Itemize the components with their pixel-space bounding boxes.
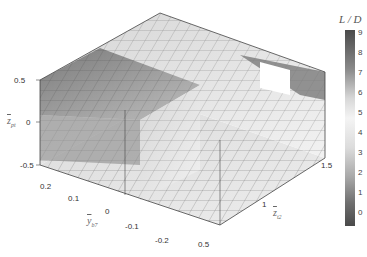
y-tick: -0.1 xyxy=(125,222,139,231)
colorbar-tick: 8 xyxy=(358,48,362,57)
colorbar-tick: 2 xyxy=(358,168,362,177)
y-tick: 0.2 xyxy=(40,182,51,191)
z-tick: -0.5 xyxy=(20,161,34,170)
z-tick: 0 xyxy=(26,118,30,127)
colorbar-tick: 0 xyxy=(358,208,362,217)
colorbar xyxy=(345,30,355,226)
colorbar-tick: 9 xyxy=(358,28,362,37)
colorbar-tick: 6 xyxy=(358,88,362,97)
x-tick: 0.5 xyxy=(198,240,209,249)
x-tick: 1.5 xyxy=(321,161,332,170)
y-tick: 0 xyxy=(105,207,109,216)
colorbar-tick: 4 xyxy=(358,128,362,137)
x-axis-label: zt2 xyxy=(273,207,282,220)
colorbar-tick: 3 xyxy=(358,148,362,157)
z-tick: 0.5 xyxy=(14,76,25,85)
y-axis-label: yb7 xyxy=(87,215,97,228)
colorbar-tick: 1 xyxy=(358,188,362,197)
colorbar-tick: 7 xyxy=(358,68,362,77)
colorbar-title: L / D xyxy=(339,13,361,25)
y-tick: -0.2 xyxy=(155,236,169,245)
x-tick: 1 xyxy=(262,200,266,209)
z-axis-label: zpt xyxy=(7,115,16,128)
y-tick: 0.1 xyxy=(68,194,79,203)
colorbar-tick: 5 xyxy=(358,108,362,117)
